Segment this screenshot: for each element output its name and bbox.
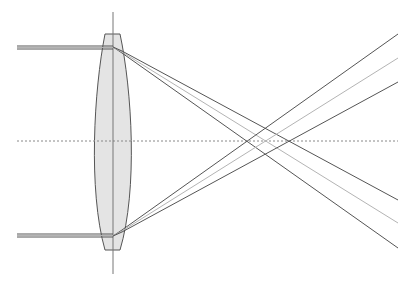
lens-aberration-diagram xyxy=(0,0,414,286)
incoming-beam-lower xyxy=(17,234,113,237)
incoming-beam-upper xyxy=(17,46,113,49)
background xyxy=(0,0,414,286)
